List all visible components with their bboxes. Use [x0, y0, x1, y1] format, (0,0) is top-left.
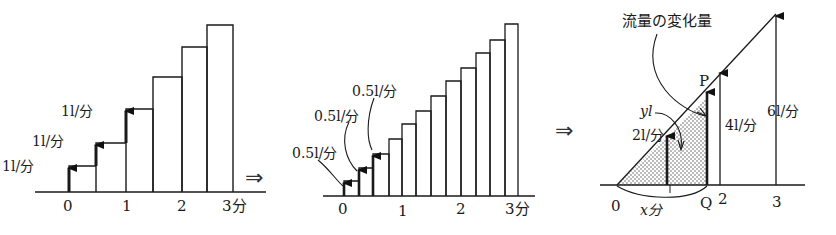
- implies-icon: ⇒: [245, 167, 263, 189]
- bar: [476, 53, 490, 196]
- leader-line: [318, 160, 343, 186]
- bar: [446, 81, 461, 196]
- x-tick-label: 3分: [222, 199, 247, 214]
- bar: [96, 143, 126, 192]
- bar: [69, 166, 96, 192]
- rate-label: 6l/分: [767, 104, 799, 118]
- step-label: 0.5l/分: [292, 146, 337, 160]
- bar: [182, 47, 207, 192]
- bar: [431, 96, 446, 196]
- annotation-label: 流量の変化量: [622, 14, 712, 29]
- bar: [126, 109, 153, 192]
- bar: [505, 24, 518, 196]
- x-tick-label: 0: [338, 202, 348, 217]
- x-tick-label: 3: [772, 195, 782, 210]
- bar: [490, 40, 505, 196]
- rate-label: 4l/分: [725, 118, 757, 132]
- x-tick-label: 2: [718, 192, 728, 207]
- x-tick-label: 0: [611, 199, 621, 214]
- y-label: yl: [640, 104, 652, 118]
- bar: [359, 168, 373, 196]
- x-brace: [617, 186, 707, 197]
- x-tick-label: 0: [63, 199, 73, 214]
- x-tick-label: 2: [456, 202, 466, 217]
- bar: [373, 154, 389, 196]
- diagram-canvas: ⇒ ⇒ 0 1 2 3分 1l/分 1l/分 1l/分 0 1 2 3分 0.5…: [0, 0, 836, 235]
- x-label: x分: [640, 203, 662, 217]
- x-tick-label: 1: [398, 204, 408, 219]
- point-q-label: Q: [700, 196, 712, 211]
- x-tick-label: 1: [122, 199, 132, 214]
- bar: [344, 181, 359, 196]
- step-label: 0.5l/分: [314, 109, 359, 123]
- leader-line: [653, 34, 705, 116]
- leader-line: [368, 98, 374, 150]
- leader-line: [345, 122, 357, 171]
- x-tick-label: 2: [177, 199, 187, 214]
- rate-label: 2l/分: [632, 128, 664, 142]
- step-label: 1l/分: [2, 159, 34, 173]
- bar: [461, 68, 476, 196]
- step-label: 1l/分: [32, 134, 64, 148]
- bar: [207, 25, 233, 192]
- point-p-label: P: [699, 74, 709, 89]
- step-label: 1l/分: [61, 104, 93, 118]
- step-label: 0.5l/分: [352, 84, 397, 98]
- bar: [389, 139, 402, 196]
- bar: [402, 124, 416, 196]
- bar: [153, 77, 182, 192]
- bar: [416, 111, 431, 196]
- x-tick-label: 3分: [505, 202, 530, 217]
- implies-icon: ⇒: [555, 120, 573, 142]
